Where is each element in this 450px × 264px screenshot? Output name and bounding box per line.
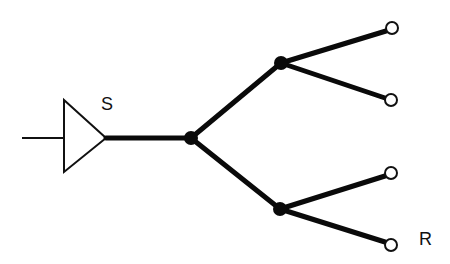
- wire-segment: [191, 138, 280, 209]
- junction-nodes: [184, 56, 288, 216]
- junction-dot-lower: [273, 202, 287, 216]
- terminal-circle-t1: [386, 22, 398, 34]
- wire-segment: [280, 176, 385, 209]
- wires: [106, 31, 386, 242]
- junction-dot-upper: [274, 56, 288, 70]
- terminal-circle-t4: [385, 239, 397, 251]
- source-label: S: [101, 94, 113, 114]
- buffer-triangle-icon: [64, 100, 106, 172]
- source-driver: S: [22, 94, 113, 172]
- receiver-label: R: [419, 229, 432, 249]
- junction-dot-root: [184, 131, 198, 145]
- terminal-circle-t3: [385, 167, 397, 179]
- wire-segment: [191, 63, 281, 138]
- receiver-terminals: [385, 22, 398, 251]
- tree-network-diagram: S R: [0, 0, 450, 264]
- wire-segment: [280, 209, 385, 242]
- wire-segment: [281, 31, 386, 63]
- wire-segment: [281, 63, 385, 98]
- terminal-circle-t2: [385, 94, 397, 106]
